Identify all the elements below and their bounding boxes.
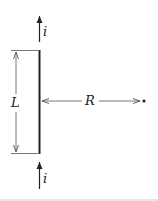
current-label-bottom: i: [43, 171, 47, 186]
field-point: [142, 99, 145, 102]
wire-diagram: i L R i: [0, 0, 158, 201]
bottom-divider: [0, 199, 158, 201]
length-label: L: [10, 95, 20, 110]
distance-label: R: [84, 93, 95, 108]
current-label-top: i: [43, 24, 47, 39]
